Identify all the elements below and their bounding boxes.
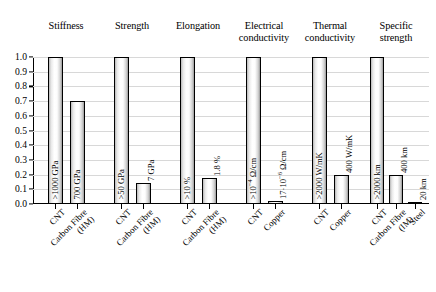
bar-value-label: >1000 GPa	[51, 161, 60, 200]
group-titles-row: StiffnessStrengthElongationElectricalcon…	[33, 20, 429, 58]
bar[interactable]: >10 %	[180, 57, 195, 204]
x-category-label-line: Copper	[327, 207, 353, 233]
bar-slot: 700 GPa	[70, 57, 85, 204]
bar-value-label: >10 %	[183, 177, 192, 200]
y-tick-label: 0.8	[0, 82, 27, 92]
bar-group-4: >2000 W/mK400 W/mK	[297, 57, 363, 204]
x-category-label: Copper	[261, 207, 287, 233]
group-title-5: Specificstrength	[363, 20, 429, 58]
bar[interactable]: 7 GPa	[136, 183, 151, 204]
bar[interactable]: >50 GPa	[114, 57, 129, 204]
bar-group-0: >1000 GPa700 GPa	[33, 57, 99, 204]
group-title-line: Elongation	[165, 20, 231, 32]
bar-value-label: >10−4 Ω/cm	[249, 158, 258, 200]
bar-slot: 400 W/mK	[334, 57, 349, 204]
bar[interactable]: >2000 km	[370, 57, 384, 204]
bar-value-label: 17·10−6 Ω/cm	[279, 151, 288, 199]
y-tick-label: 0.6	[0, 111, 27, 121]
bar-slot: 20 km	[408, 57, 422, 204]
x-axis-category-labels: CNTCarbon Fibre(HM)CNTCarbon Fibre(HM)CN…	[33, 207, 429, 289]
group-title-line: conductivity	[231, 32, 297, 44]
group-title-line: Strength	[99, 20, 165, 32]
bar-value-label: 400 W/mK	[345, 134, 354, 172]
bar-slot: 400 km	[389, 57, 403, 204]
plot-area: 1.00.90.80.70.60.50.40.30.20.10.0 >1000 …	[33, 57, 429, 204]
bar-slot: >2000 km	[370, 57, 384, 204]
bar-slot: >10 %	[180, 57, 195, 204]
bar-group-3: >10−4 Ω/cm17·10−6 Ω/cm	[231, 57, 297, 204]
group-title-3: Electricalconductivity	[231, 20, 297, 58]
bar-value-label: >2000 km	[373, 165, 382, 200]
group-title-2: Elongation	[165, 20, 231, 58]
bar-slot: 7 GPa	[136, 57, 151, 204]
bar-value-label: 1.8 %	[213, 155, 222, 175]
bar[interactable]: >1000 GPa	[48, 57, 63, 204]
bar-value-label: >50 GPa	[117, 170, 126, 200]
bar-slot: >1000 GPa	[48, 57, 63, 204]
bar[interactable]: >2000 W/mK	[312, 57, 327, 204]
y-tick-label: 0.9	[0, 67, 27, 77]
group-title-line: Thermal	[297, 20, 363, 32]
group-title-0: Stiffness	[33, 20, 99, 58]
bar-group-1: >50 GPa7 GPa	[99, 57, 165, 204]
bar[interactable]: 1.8 %	[202, 178, 217, 204]
bar-value-label: >2000 W/mK	[315, 153, 324, 200]
bar-slot: 1.8 %	[202, 57, 217, 204]
cnt-property-comparison-chart: StiffnessStrengthElongationElectricalcon…	[0, 0, 436, 292]
y-tick-label: 1.0	[0, 52, 27, 62]
bar-slot: 17·10−6 Ω/cm	[268, 57, 283, 204]
group-title-line: strength	[363, 32, 429, 44]
bar[interactable]: >10−4 Ω/cm	[246, 57, 261, 204]
y-tick-label: 0.1	[0, 185, 27, 195]
group-title-line: conductivity	[297, 32, 363, 44]
bar[interactable]: 700 GPa	[70, 101, 85, 204]
bar-slot: >10−4 Ω/cm	[246, 57, 261, 204]
bar-slot: >50 GPa	[114, 57, 129, 204]
group-title-line: Specific	[363, 20, 429, 32]
group-title-line: Electrical	[231, 20, 297, 32]
y-tick-label: 0.0	[0, 199, 27, 209]
y-tick-label: 0.4	[0, 140, 27, 150]
group-title-line: Stiffness	[33, 20, 99, 32]
bar-value-label: 700 GPa	[73, 170, 82, 200]
bar-groups: >1000 GPa700 GPa>50 GPa7 GPa>10 %1.8 %>1…	[33, 57, 429, 204]
bar-value-label: 7 GPa	[147, 160, 156, 181]
bar[interactable]: 400 W/mK	[334, 175, 349, 204]
bar-value-label: 20 km	[419, 178, 428, 200]
bar-group-2: >10 %1.8 %	[165, 57, 231, 204]
group-title-4: Thermalconductivity	[297, 20, 363, 58]
y-tick-label: 0.3	[0, 155, 27, 165]
bar-group-5: >2000 km400 km20 km	[363, 57, 429, 204]
y-tick-label: 0.2	[0, 170, 27, 180]
bar-slot: >2000 W/mK	[312, 57, 327, 204]
x-category-label: Copper	[327, 207, 353, 233]
bar[interactable]: 400 km	[389, 175, 403, 204]
y-tick-label: 0.5	[0, 126, 27, 136]
group-title-1: Strength	[99, 20, 165, 58]
x-category-label-line: Copper	[261, 207, 287, 233]
y-tick-label: 0.7	[0, 96, 27, 106]
